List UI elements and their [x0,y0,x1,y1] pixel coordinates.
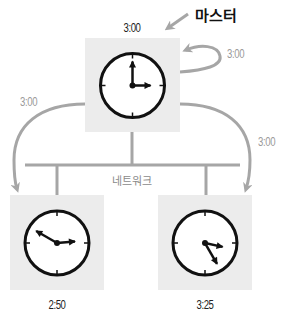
right-sync-time-label: 3:00 [258,135,275,149]
self-sync-time-label: 3:00 [227,47,244,61]
left-client-clock-icon [10,195,104,290]
right-sync-arrow [180,104,250,189]
master-clock-icon [85,38,180,132]
network-label: 네트워크 [112,172,152,188]
master-time-label: 3:00 [116,21,148,35]
right-client-time-label: 3:25 [189,298,221,312]
master-clock-box [85,38,180,132]
right-client-clock-icon [158,195,252,290]
right-client-clock-box [158,195,252,290]
left-sync-arrow [14,104,85,189]
master-pointer-arrow [168,14,188,28]
master-label: 마스터 [195,4,237,25]
left-client-time-label: 2:50 [41,298,73,312]
left-sync-time-label: 3:00 [20,95,37,109]
left-client-clock-box [10,195,104,290]
self-sync-arrow [180,46,220,72]
